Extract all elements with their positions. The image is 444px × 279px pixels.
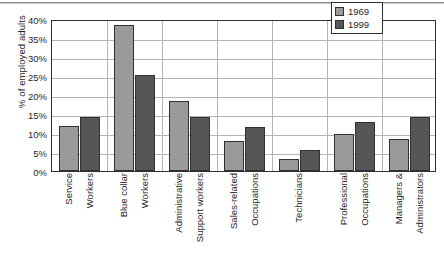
y-axis-tick-label: 25% [4, 72, 47, 83]
category-separator [217, 21, 218, 171]
x-axis-label-line: Administrative [173, 173, 184, 277]
category-separator [382, 21, 383, 171]
y-axis-tick-label: 15% [4, 110, 47, 121]
category-separator [327, 21, 328, 171]
bar-1999-6 [410, 117, 430, 171]
x-axis-label-line: Occupations [249, 173, 260, 277]
y-axis-tick-label: 10% [4, 129, 47, 140]
category-separator [272, 21, 273, 171]
legend-swatch-1969 [335, 7, 344, 16]
bar-1999-2 [190, 117, 210, 171]
y-axis-tick-label: 0% [4, 167, 47, 178]
y-axis-tick-label: 5% [4, 148, 47, 159]
y-axis-tick-label: 20% [4, 91, 47, 102]
x-axis-label-line: Administrators [414, 173, 425, 277]
bar-chart-figure: % of employed adults 40%35%30%25%20%15%1… [0, 0, 444, 279]
bar-1999-1 [135, 75, 155, 171]
bar-1969-0 [59, 126, 79, 171]
gridline [52, 59, 435, 60]
bar-1999-4 [300, 150, 320, 171]
plot-area [51, 20, 436, 172]
legend-label-1969: 1969 [348, 7, 369, 17]
gridline [52, 78, 435, 79]
legend-label-1999: 1999 [348, 20, 369, 30]
gridline [52, 97, 435, 98]
gridline [52, 116, 435, 117]
bar-1969-3 [224, 141, 244, 171]
bar-1969-2 [169, 101, 189, 171]
legend-item: 1969 [335, 5, 379, 18]
x-axis-label-line: Blue collar [118, 173, 129, 277]
bar-1969-1 [114, 25, 134, 171]
category-separator [107, 21, 108, 171]
chart-legend: 1969 1999 [331, 2, 383, 34]
bar-1999-3 [245, 127, 265, 171]
y-axis-tick-label: 40% [4, 15, 47, 26]
x-axis-label-line: Occupations [359, 173, 370, 277]
y-axis-tick-label: 30% [4, 53, 47, 64]
bar-1969-5 [334, 134, 354, 171]
x-axis-category-labels: ServiceWorkersBlue collarWorkersAdminist… [51, 173, 436, 279]
y-axis-tick-label: 35% [4, 34, 47, 45]
x-axis-label-line: Technicians [293, 173, 304, 277]
x-axis-label-line: Sales-related [228, 173, 239, 277]
x-axis-label-line: Support workers [194, 173, 205, 277]
x-axis-label-line: Professional [338, 173, 349, 277]
legend-item: 1999 [335, 18, 379, 31]
x-axis-label-line: Workers [139, 173, 150, 277]
x-axis-label-line: Workers [84, 173, 95, 277]
legend-swatch-1999 [335, 20, 344, 29]
gridline [52, 40, 435, 41]
category-separator [162, 21, 163, 171]
gridline [52, 135, 435, 136]
x-axis-label-line: Managers & [393, 173, 404, 277]
bar-1999-0 [80, 117, 100, 171]
bar-1999-5 [355, 122, 375, 171]
bar-1969-4 [279, 159, 299, 171]
x-axis-label-line: Service [63, 173, 74, 277]
bar-1969-6 [389, 139, 409, 171]
